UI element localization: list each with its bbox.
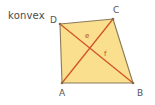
vertex-label-c: C [113,6,119,15]
figure-caption: konvex [8,10,45,21]
vertex-label-d: D [50,16,57,25]
vertex-dot-A [61,82,64,85]
vertex-label-b: B [137,89,143,98]
figure-canvas: konvex A B C D e f [0,0,155,105]
diagonal-label-e: e [85,33,89,40]
vertex-dot-D [59,23,62,26]
vertex-dot-C [112,18,115,21]
diagonal-label-f: f [104,51,106,58]
vertex-dot-B [132,82,135,85]
vertex-label-a: A [59,89,65,98]
